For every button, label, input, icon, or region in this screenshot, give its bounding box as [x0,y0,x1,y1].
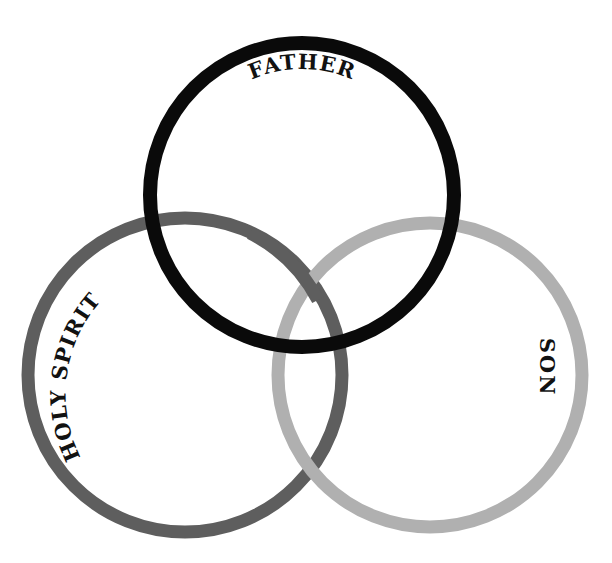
holy-spirit-arc-overlap [250,233,318,300]
trinity-venn-diagram: FATHER HOLY SPIRIT SON [0,0,612,563]
son-label: SON [535,338,560,397]
holy-spirit-label: HOLY SPIRIT [45,288,105,466]
